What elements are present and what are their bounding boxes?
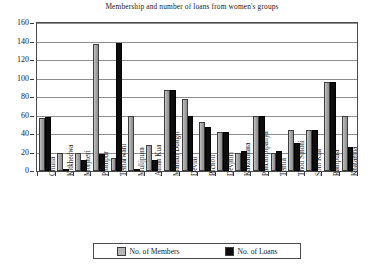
y-tick-mark xyxy=(30,116,34,117)
x-tick-label: Aman Kua xyxy=(156,145,164,176)
y-tick-label: 80 xyxy=(21,93,29,101)
x-tick-label: Pithnpur xyxy=(103,151,111,176)
y-tick-label: 0 xyxy=(25,167,29,175)
bar-group xyxy=(215,23,233,171)
x-tick-label: Bicholi xyxy=(210,155,218,176)
y-tick-mark xyxy=(30,153,34,154)
bar-members xyxy=(93,44,99,171)
x-tick-label: Devlai xyxy=(192,157,200,176)
chart-legend: No. of MembersNo. of Loans xyxy=(93,243,301,259)
bar-group xyxy=(268,23,286,171)
bar-group xyxy=(197,23,215,171)
y-tick-label: 120 xyxy=(17,56,29,64)
y-tick-label: 60 xyxy=(21,112,29,120)
y-tick-mark xyxy=(30,79,34,80)
y-tick-mark xyxy=(30,23,34,24)
y-tick-mark xyxy=(30,171,34,172)
y-axis: 020406080100120140160 xyxy=(0,22,34,172)
x-tick-label: Devjhiri xyxy=(228,152,236,176)
x-axis-labels: ChuliaKitkhedwaMorjheriPithnpurTemarwani… xyxy=(37,176,357,234)
x-tick-label: Mahudi Dungri xyxy=(174,131,182,176)
y-tick-label: 140 xyxy=(17,38,29,46)
legend-swatch-members xyxy=(117,247,126,256)
y-tick-label: 20 xyxy=(21,149,29,157)
y-tick-mark xyxy=(30,42,34,43)
legend-label: No. of Members xyxy=(130,247,180,256)
x-tick-label: Som Kua xyxy=(316,149,324,176)
bar-group xyxy=(179,23,197,171)
legend-swatch-loans xyxy=(225,247,234,256)
x-tick-label: Khatamba xyxy=(352,146,360,176)
x-tick-label: Mulijpura xyxy=(139,147,147,176)
x-tick-label: Temla xyxy=(281,158,289,176)
y-tick-label: 100 xyxy=(17,75,29,83)
chart-title: Membership and number of loans from wome… xyxy=(0,2,384,11)
y-tick-label: 40 xyxy=(21,130,29,138)
y-tick-label: 160 xyxy=(17,19,29,27)
bar-members xyxy=(128,116,134,172)
bars-layer xyxy=(37,23,357,171)
bar-group xyxy=(90,23,108,171)
x-tick-label: Thod Sindhi xyxy=(299,140,307,176)
y-tick-mark xyxy=(30,134,34,135)
legend-entry: No. of Loans xyxy=(225,247,278,256)
x-tick-label: Temarwani xyxy=(121,144,129,176)
x-tick-label: Kakradhara xyxy=(245,142,253,176)
legend-label: No. of Loans xyxy=(238,247,278,256)
legend-entry: No. of Members xyxy=(117,247,180,256)
y-tick-mark xyxy=(30,60,34,61)
y-tick-mark xyxy=(30,97,34,98)
x-tick-label: Rampura xyxy=(334,150,342,176)
x-tick-label: Morjheri xyxy=(85,150,93,176)
x-tick-label: Kitkhedwa xyxy=(68,144,76,176)
bar-group xyxy=(37,23,55,171)
x-tick-label: Chulia xyxy=(50,157,58,176)
x-tick-label: Panchlipipaliya xyxy=(263,131,271,176)
